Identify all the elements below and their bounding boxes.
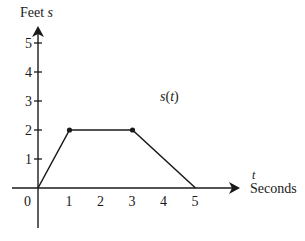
y-ticks: 12345 — [25, 36, 42, 167]
curve-point — [67, 127, 72, 132]
x-axis-title: Seconds — [250, 181, 297, 196]
y-tick-label: 5 — [25, 36, 32, 51]
y-tick-label: 2 — [25, 123, 32, 138]
y-tick-label: 4 — [25, 65, 32, 80]
curve-point — [130, 127, 135, 132]
x-ticks: 012345 — [24, 194, 199, 209]
distance-time-chart: 12345 012345 Feet s s(t) t Seconds — [0, 0, 305, 241]
y-axis-title: Feet s — [20, 5, 54, 20]
x-tick-label: 3 — [129, 194, 136, 209]
x-tick-label: 1 — [66, 194, 73, 209]
curve-label: s(t) — [160, 89, 179, 105]
y-tick-label: 1 — [25, 152, 32, 167]
y-tick-label: 3 — [25, 94, 32, 109]
x-axis-var: t — [252, 168, 256, 182]
s-of-t-curve — [38, 130, 196, 188]
x-tick-label: 5 — [192, 194, 199, 209]
x-tick-label: 0 — [24, 194, 31, 209]
x-tick-label: 4 — [160, 194, 167, 209]
x-tick-label: 2 — [97, 194, 104, 209]
